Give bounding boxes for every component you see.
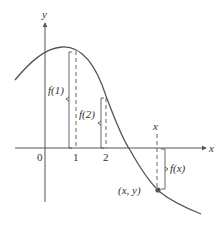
tick-label-2: 2 [103,151,109,163]
fx-marker [157,134,168,189]
f1-marker [66,51,76,148]
y-axis-label: y [41,8,47,20]
function-curve [15,47,201,214]
origin-label: 0 [37,151,43,163]
f2-marker [98,98,106,148]
point-label: (x, y) [118,184,141,197]
function-graph-diagram: y x 0 1 2 x f(1) f(2) f(x) (x, y) [0,0,222,231]
f2-label: f(2) [79,108,95,121]
x-axis-label: x [208,142,214,154]
x-marker-label: x [152,120,158,132]
fx-label: f(x) [170,162,186,175]
point-xy [155,187,160,192]
f1-label: f(1) [48,84,64,97]
tick-label-1: 1 [73,151,79,163]
